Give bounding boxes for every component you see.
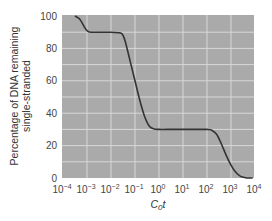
y-tick-label: 20 [46,140,58,151]
y-tick-label: 60 [46,75,58,86]
chart: 020406080100 10−410−310−210−110010110210… [0,0,272,221]
y-tick-label: 100 [40,11,57,22]
y-axis-title-line1: Percentage of DNA remaining [8,26,20,165]
y-tick-label: 40 [46,108,58,119]
x-tick-label: 10−3 [76,183,95,195]
x-tick-label: 10−4 [52,183,71,195]
y-axis-title: Percentage of DNA remaining single-stran… [8,26,32,165]
x-tick-label: 101 [174,183,189,195]
x-tick-label: 10−1 [124,183,143,195]
y-axis-ticks: 020406080100 [40,11,57,184]
x-tick-label: 100 [150,183,165,195]
y-tick-label: 80 [46,43,58,54]
x-tick-label: 103 [222,183,237,195]
y-axis-title-line2: single-stranded [20,60,32,132]
x-axis-title: C0t [151,198,167,212]
x-tick-label: 102 [198,183,213,195]
x-tick-label: 10−2 [100,183,119,195]
x-tick-label: 104 [246,183,261,195]
x-axis-ticks: 10−410−310−210−1100101102103104 [52,183,261,195]
y-tick-label: 0 [51,173,57,184]
